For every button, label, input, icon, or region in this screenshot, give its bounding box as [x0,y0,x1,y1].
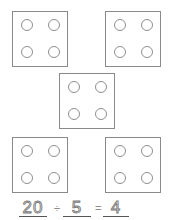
counter-circle-icon [141,145,153,157]
divisor-blank[interactable]: 5 [63,199,91,217]
counter-circle-icon [21,46,33,58]
counter-circle-icon [68,81,80,93]
counter-circle-icon [48,172,60,184]
group-box-5 [105,137,161,193]
equals-sign: = [95,203,101,214]
counter-circle-icon [114,145,126,157]
counter-circle-icon [21,172,33,184]
group-box-2 [105,11,161,67]
group-box-3 [59,73,115,129]
counter-circle-icon [21,145,33,157]
counter-circle-icon [114,46,126,58]
counter-circle-icon [48,145,60,157]
counter-circle-icon [141,46,153,58]
counter-circle-icon [114,19,126,31]
counter-circle-icon [114,172,126,184]
counter-circle-icon [21,19,33,31]
dividend-blank[interactable]: 20 [19,199,47,217]
counter-circle-icon [68,108,80,120]
quotient-blank[interactable]: 4 [103,199,129,217]
counter-circle-icon [48,19,60,31]
divide-sign: ÷ [54,203,60,214]
counter-circle-icon [48,46,60,58]
counter-circle-icon [95,108,107,120]
counter-circle-icon [141,172,153,184]
group-box-1 [12,11,68,67]
counter-circle-icon [95,81,107,93]
counter-circle-icon [141,19,153,31]
group-box-4 [12,137,68,193]
